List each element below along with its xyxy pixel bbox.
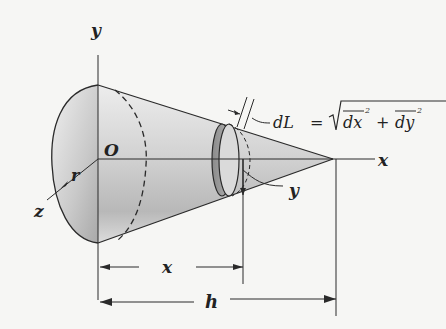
dimension-h-label: h — [205, 291, 218, 312]
disk-radius-label: y — [288, 180, 300, 200]
z-axis-label: z — [33, 201, 44, 221]
x-axis-label: x — [377, 150, 389, 170]
svg-text:dy: dy — [395, 113, 415, 132]
svg-text:+: + — [376, 113, 389, 132]
origin-label: O — [104, 140, 119, 160]
svg-text:dx: dx — [343, 113, 362, 132]
svg-text:2: 2 — [364, 106, 370, 115]
cone-body — [52, 85, 333, 243]
dimension-x-label: x — [161, 257, 173, 277]
arc-length-equation: dL = dx 2 + dy 2 — [273, 101, 446, 132]
svg-text:=: = — [310, 113, 323, 132]
cone-diagram: y x z O r y x h dL = dx 2 + dy 2 — [0, 0, 446, 329]
svg-text:dL: dL — [273, 113, 294, 132]
svg-text:2: 2 — [416, 106, 422, 115]
y-axis-label: y — [90, 20, 102, 40]
dl-marker — [228, 97, 270, 129]
